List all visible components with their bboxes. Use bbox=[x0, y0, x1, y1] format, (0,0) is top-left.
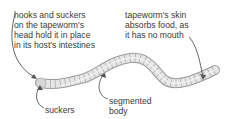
segmented-body-label: segmented body bbox=[109, 96, 152, 116]
skin-absorbs-food-label: tapeworm's skin absorbs food, as it has … bbox=[125, 10, 189, 40]
hooks-arrowhead bbox=[31, 74, 37, 79]
suckers-label: suckers bbox=[45, 105, 75, 115]
tapeworm-body bbox=[40, 58, 215, 86]
tapeworm-head bbox=[36, 78, 46, 88]
segmented-pointer bbox=[99, 74, 108, 99]
hooks-and-suckers-label: hooks and suckers on the tapeworm's head… bbox=[14, 10, 95, 50]
